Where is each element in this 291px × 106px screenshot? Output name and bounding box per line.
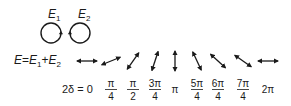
phase-label: π4: [105, 78, 117, 102]
e1-direction-arrow-icon: [59, 31, 63, 34]
svg-text:4: 4: [215, 91, 221, 102]
svg-text:5π: 5π: [191, 78, 204, 89]
phase-label: 6π4: [212, 78, 225, 102]
phase-label: 2π: [262, 84, 275, 95]
svg-text:4: 4: [240, 91, 246, 102]
e1-label: E1: [48, 7, 61, 23]
polarization-arrow-icon: [211, 54, 226, 67]
svg-text:π: π: [130, 78, 137, 89]
svg-text:2π: 2π: [262, 84, 275, 95]
phase-prefix: 2δ = 0: [62, 83, 93, 95]
e2-label: E2: [78, 7, 91, 23]
polarization-diagram: E1 E2 E=E1+E2 2δ = 0 π4π23π4π5π46π47π42π: [0, 0, 291, 106]
svg-text:2: 2: [130, 91, 136, 102]
e1-circle: [41, 23, 63, 43]
phase-label: 5π4: [191, 78, 204, 102]
svg-text:6π: 6π: [212, 78, 225, 89]
svg-text:4: 4: [108, 91, 114, 102]
polarization-arrows: [77, 51, 278, 71]
phase-label: π2: [127, 78, 139, 102]
svg-text:7π: 7π: [237, 78, 250, 89]
e2-circle: [68, 23, 90, 43]
phase-label: 3π4: [149, 78, 162, 102]
svg-text:4: 4: [152, 91, 158, 102]
sum-equation: E=E1+E2: [14, 53, 62, 69]
phase-label: π: [172, 84, 179, 95]
svg-text:4: 4: [194, 91, 200, 102]
phase-labels: π4π23π4π5π46π47π42π: [105, 78, 274, 102]
polarization-arrow-icon: [152, 51, 158, 70]
svg-text:π: π: [172, 84, 179, 95]
polarization-arrow-icon: [127, 53, 138, 69]
polarization-arrow-icon: [235, 55, 251, 66]
phase-label: 7π4: [237, 78, 250, 102]
polarization-arrow-icon: [193, 52, 201, 70]
svg-text:π: π: [108, 78, 115, 89]
polarization-arrow-icon: [102, 57, 121, 64]
svg-text:3π: 3π: [149, 78, 162, 89]
e2-direction-arrow-icon: [68, 31, 72, 34]
